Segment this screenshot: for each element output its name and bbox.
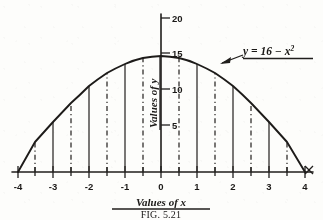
- x-tick-label: -3: [49, 181, 57, 192]
- annotation-arrowhead-icon: [220, 57, 231, 64]
- y-axis-tick-labels: 20 15 10 5: [172, 13, 183, 131]
- x-tick-label: 4: [302, 181, 308, 192]
- y-tick-label: 5: [172, 120, 178, 131]
- y-tick-label: 10: [172, 84, 183, 95]
- x-tick-label: -1: [121, 181, 130, 192]
- x-tick-label: 3: [266, 181, 271, 192]
- y-tick-label: 20: [172, 13, 183, 24]
- parabola-chart: -4 -3 -2 -1 0 1 2 3 4 20 15 10 5: [0, 0, 323, 220]
- x-axis: [12, 166, 313, 174]
- y-axis-title-group: Values of y: [147, 56, 160, 130]
- x-axis-tick-labels: -4 -3 -2 -1 0 1 2 3 4: [14, 181, 309, 192]
- x-tick-label: 0: [158, 181, 163, 192]
- x-axis-title-group: Values of x: [112, 196, 210, 209]
- x-tick-label: -2: [85, 181, 93, 192]
- y-axis-title: Values of y: [147, 78, 159, 128]
- x-axis-title: Values of x: [136, 196, 187, 208]
- x-tick-label: -4: [14, 181, 23, 192]
- figure-container: -4 -3 -2 -1 0 1 2 3 4 20 15 10 5: [0, 0, 323, 220]
- x-tick-label: 1: [194, 181, 200, 192]
- figure-caption: FIG. 5.21: [141, 209, 181, 220]
- equation-annotation: y = 16 − x2: [220, 44, 313, 64]
- y-axis-ticks: [161, 18, 170, 125]
- x-tick-label: 2: [230, 181, 235, 192]
- equation-label: y = 16 − x2: [241, 44, 294, 58]
